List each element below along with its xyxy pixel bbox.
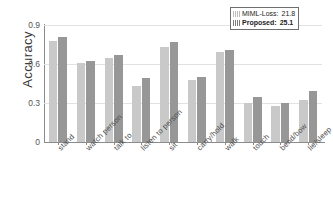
legend-label-miml-loss: MIML-Loss: — [242, 10, 279, 17]
bar-miml-loss-watch-person — [77, 63, 86, 142]
legend-swatch-miml-loss — [233, 11, 240, 17]
bar-group — [244, 25, 262, 142]
bar-proposed-lie-sleep — [309, 91, 318, 142]
plot-area — [44, 25, 322, 142]
bar-proposed-stand — [58, 37, 67, 142]
bar-proposed-touch — [253, 97, 262, 143]
legend-label-proposed: Proposed: — [242, 19, 277, 26]
bar-group — [77, 25, 95, 142]
bar-miml-loss-lie-sleep — [299, 100, 308, 142]
bar-group — [216, 25, 234, 142]
y-tick-label: 0.3 — [14, 98, 40, 108]
legend-row-proposed: Proposed: 25.1 — [233, 18, 295, 27]
bar-proposed-watch-person — [86, 61, 95, 142]
bar-proposed-walk — [225, 50, 234, 142]
bar-miml-loss-bend-bow — [271, 106, 280, 142]
bar-group — [299, 25, 317, 142]
bar-proposed-bend-bow — [281, 103, 290, 142]
bar-group — [132, 25, 150, 142]
bar-miml-loss-talk-to — [105, 58, 114, 143]
bar-proposed-carry-hold — [197, 77, 206, 142]
bar-proposed-sit — [170, 42, 179, 142]
legend-value-miml-loss: 21.8 — [282, 10, 296, 17]
y-tick-label: 0.6 — [14, 59, 40, 69]
bar-miml-loss-listen-to-person — [132, 86, 141, 142]
legend-swatch-proposed — [233, 20, 240, 26]
bar-proposed-listen-to-person — [142, 78, 151, 142]
bar-group — [188, 25, 206, 142]
legend-row-miml-loss: MIML-Loss: 21.8 — [233, 9, 295, 18]
x-axis-line — [44, 142, 325, 143]
bar-miml-loss-sit — [160, 47, 169, 142]
legend-value-proposed: 25.1 — [280, 19, 294, 26]
bar-miml-loss-walk — [216, 52, 225, 142]
y-axis-tick-labels: 00.30.60.9 — [12, 0, 40, 206]
bar-group — [271, 25, 289, 142]
y-tick-label: 0.9 — [14, 20, 40, 30]
bar-miml-loss-touch — [244, 103, 253, 142]
chart-legend: MIML-Loss: 21.8 Proposed: 25.1 — [230, 7, 299, 30]
bar-group — [49, 25, 67, 142]
y-tick-label: 0 — [14, 137, 40, 147]
bar-proposed-talk-to — [114, 55, 123, 142]
bar-miml-loss-stand — [49, 41, 58, 142]
bar-group — [160, 25, 178, 142]
bar-group — [105, 25, 123, 142]
bar-miml-loss-carry-hold — [188, 80, 197, 142]
